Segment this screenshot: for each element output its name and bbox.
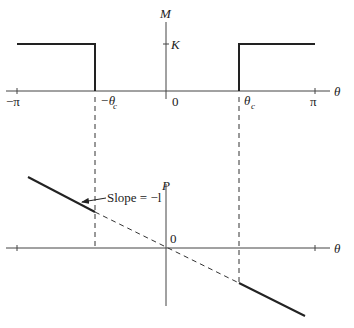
p-axis-label: P: [161, 178, 170, 193]
m-axis-label: M: [159, 6, 172, 21]
slope-arrow-icon: [82, 198, 106, 202]
bottom-plot: Slope = −l P 0 θ: [6, 177, 341, 316]
k-label: K: [170, 37, 181, 52]
m-right-step: [239, 44, 315, 91]
m-left-step: [17, 44, 95, 91]
top-theta-label: θ: [334, 84, 341, 99]
p-left-solid: [28, 177, 95, 212]
neg-theta-c-label: −θ c: [100, 93, 117, 111]
pi-label: π: [310, 94, 317, 109]
svg-text:θ: θ: [244, 93, 251, 108]
svg-text:c: c: [113, 101, 117, 111]
bottom-origin-label: 0: [170, 231, 177, 246]
theta-c-label: θ: [244, 93, 251, 108]
theta-c-subscript: c: [251, 101, 255, 111]
slope-annotation: Slope = −l: [107, 190, 162, 205]
bottom-theta-label: θ: [334, 241, 341, 256]
diagram-canvas: M K θ −π 0 π −θ c θ c Slope = −l P 0 θ: [0, 0, 354, 328]
p-right-solid: [239, 283, 305, 316]
top-zero-label: 0: [172, 94, 179, 109]
top-plot: M K θ −π 0 π −θ c θ: [6, 6, 341, 111]
neg-pi-label: −π: [6, 94, 20, 109]
